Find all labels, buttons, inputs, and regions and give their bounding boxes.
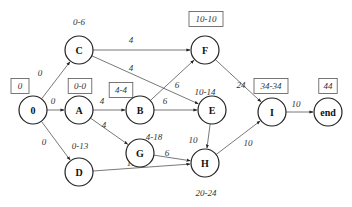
node-label: end bbox=[320, 107, 336, 118]
edge-0-A: 0 bbox=[47, 96, 64, 110]
arrow-icon bbox=[42, 62, 70, 99]
edge-weight-label: 6 bbox=[175, 80, 180, 90]
arrow-icon bbox=[150, 60, 194, 100]
time-label-A: 0-0 bbox=[68, 79, 92, 94]
node-B: B bbox=[126, 96, 154, 124]
edge-weight-label: 10 bbox=[244, 138, 254, 148]
node-label: A bbox=[75, 105, 83, 116]
edge-A-G: 4 bbox=[90, 118, 127, 144]
time-label-text: 0 bbox=[18, 81, 23, 91]
activity-network-diagram: 00044441166610241010 00-60-04-40-1310-10… bbox=[0, 0, 352, 207]
node-E: E bbox=[198, 96, 226, 124]
edge-weight-label: 10 bbox=[292, 99, 302, 109]
time-label-text: 34-34 bbox=[260, 81, 282, 91]
node-H: H bbox=[191, 149, 219, 177]
time-label-I: 34-34 bbox=[254, 79, 288, 94]
edge-weight-label: 10 bbox=[189, 135, 199, 145]
edge-E-H: 10 bbox=[189, 124, 211, 148]
arrow-icon bbox=[216, 121, 260, 154]
edge-B-F: 6 bbox=[150, 60, 194, 100]
edge-weight-label: 24 bbox=[237, 80, 247, 90]
edge-weight-label: 4 bbox=[129, 35, 134, 45]
arrow-icon bbox=[207, 124, 210, 148]
time-label-H: 20-24 bbox=[196, 188, 217, 198]
edge-H-I: 10 bbox=[216, 121, 260, 154]
edge-0-C: 0 bbox=[38, 62, 70, 99]
time-label-text: 4-4 bbox=[115, 85, 127, 95]
node-label: C bbox=[75, 45, 82, 56]
edge-weight-label: 4 bbox=[129, 63, 134, 73]
time-label-0: 0 bbox=[11, 79, 29, 94]
time-label-B: 4-4 bbox=[109, 83, 133, 98]
edge-G-H: 6 bbox=[154, 148, 190, 161]
arrow-icon bbox=[90, 118, 127, 144]
node-label: D bbox=[75, 167, 82, 178]
time-label-text: 0-0 bbox=[74, 81, 86, 91]
node-label: G bbox=[136, 148, 144, 159]
edge-0-D: 0 bbox=[41, 121, 70, 160]
time-label-text: 4-18 bbox=[146, 132, 163, 142]
node-F: F bbox=[191, 36, 219, 64]
edge-weight-label: 0 bbox=[42, 137, 47, 147]
time-label-end: 44 bbox=[319, 79, 337, 94]
time-label-text: 0-13 bbox=[72, 141, 89, 151]
node-label: F bbox=[202, 45, 208, 56]
time-label-text: 10-10 bbox=[196, 14, 217, 24]
node-C: C bbox=[65, 36, 93, 64]
time-label-text: 44 bbox=[324, 81, 334, 91]
nodes-layer: 0ABCDEFGHIend bbox=[19, 36, 342, 186]
node-label: H bbox=[201, 158, 209, 169]
node-label: I bbox=[270, 107, 274, 118]
node-0: 0 bbox=[19, 96, 47, 124]
node-D: D bbox=[65, 158, 93, 186]
time-label-D: 0-13 bbox=[72, 141, 89, 151]
edge-C-F: 4 bbox=[93, 35, 190, 50]
edge-weight-label: 0 bbox=[51, 96, 56, 106]
arrow-icon bbox=[154, 155, 190, 161]
time-labels-layer: 00-60-04-40-1310-1010-144-1820-2434-3444 bbox=[11, 12, 337, 199]
edge-weight-label: 6 bbox=[163, 96, 168, 106]
edge-weight-label: 0 bbox=[38, 68, 43, 78]
edge-A-B: 4 bbox=[93, 96, 125, 110]
edge-weight-label: 4 bbox=[102, 120, 107, 130]
node-A: A bbox=[65, 96, 93, 124]
node-G: G bbox=[126, 139, 154, 167]
time-label-F: 10-10 bbox=[189, 12, 223, 27]
node-label: B bbox=[137, 105, 144, 116]
edge-B-E: 6 bbox=[154, 96, 197, 110]
edge-weight-label: 4 bbox=[100, 96, 105, 106]
edge-I-end: 10 bbox=[286, 99, 313, 112]
node-label: 0 bbox=[31, 105, 36, 116]
time-label-text: 20-24 bbox=[196, 188, 217, 198]
time-label-text: 0-6 bbox=[73, 17, 85, 27]
node-end: end bbox=[314, 98, 342, 126]
time-label-G: 4-18 bbox=[146, 132, 163, 142]
node-label: E bbox=[209, 105, 216, 116]
edge-weight-label: 6 bbox=[165, 148, 170, 158]
time-label-C: 0-6 bbox=[73, 17, 85, 27]
node-I: I bbox=[258, 98, 286, 126]
